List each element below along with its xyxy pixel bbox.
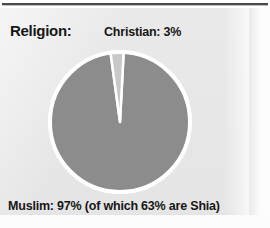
religion-pie-figure: Religion: Christian: 3% Muslim: 97% (of … [0, 0, 270, 228]
panel-fold-shading [223, 8, 249, 215]
bottom-page-margin [0, 215, 270, 228]
christian-slice-label: Christian: 3% [104, 26, 181, 39]
right-page-margin [249, 8, 270, 228]
muslim-slice-label: Muslim: 97% (of which 63% are Shia) [8, 200, 220, 213]
pie-chart [44, 46, 196, 198]
pie-chart-svg [44, 46, 196, 198]
page-title: Religion: [10, 23, 71, 38]
top-divider-rule-shadow [2, 5, 268, 6]
